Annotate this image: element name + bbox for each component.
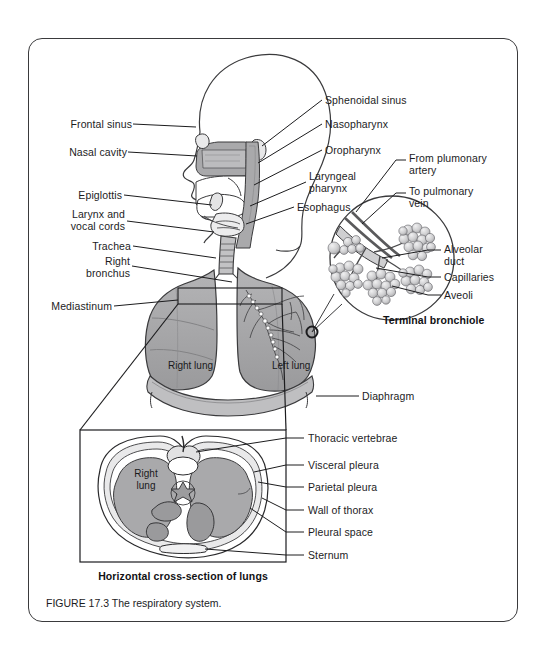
label-larynx-vocal-cords: Larynx and vocal cords bbox=[32, 208, 125, 233]
label-nasopharynx: Nasopharynx bbox=[325, 118, 388, 130]
label-sphenoidal-sinus: Sphenoidal sinus bbox=[325, 94, 407, 106]
label-aveoli: Aveoli bbox=[444, 289, 473, 301]
label-thoracic-vertebrae: Thoracic vertebrae bbox=[308, 432, 397, 444]
label-trachea: Trachea bbox=[32, 240, 131, 252]
label-frontal-sinus: Frontal sinus bbox=[32, 118, 132, 130]
label-to-pulmonary-vein: To pulmonary vein bbox=[409, 185, 473, 210]
label-nasal-cavity: Nasal cavity bbox=[32, 146, 127, 158]
label-esophagus: Esophagus bbox=[297, 201, 351, 213]
label-right-lung: Right lung bbox=[168, 360, 213, 372]
label-left-lung: Left lung bbox=[272, 360, 310, 372]
label-parietal-pleura: Parietal pleura bbox=[308, 481, 377, 493]
label-from-pulmonary-artery: From plumonary artery bbox=[409, 152, 487, 177]
label-diaphragm: Diaphragm bbox=[362, 390, 414, 402]
label-cs-right-lung: Right lung bbox=[118, 468, 174, 491]
caption-horizontal-cross-section: Horizontal cross-section of lungs bbox=[80, 570, 286, 582]
label-visceral-pleura: Visceral pleura bbox=[308, 459, 379, 471]
figure-page: Frontal sinus Nasal cavity Epiglottis La… bbox=[0, 0, 544, 664]
label-capillaries: Capillaries bbox=[444, 271, 494, 283]
caption-terminal-bronchiole: Terminal bronchiole bbox=[383, 314, 485, 326]
label-sternum: Sternum bbox=[308, 549, 348, 561]
label-mediastinum: Mediastinum bbox=[28, 300, 112, 312]
label-right-bronchus: Right bronchus bbox=[32, 255, 130, 280]
label-pleural-space: Pleural space bbox=[308, 526, 373, 538]
label-alveolar-duct: Alveolar duct bbox=[444, 243, 483, 268]
label-wall-of-thorax: Wall of thorax bbox=[308, 504, 373, 516]
label-epiglottis: Epiglottis bbox=[32, 189, 122, 201]
label-laryngeal-pharynx: Laryngeal pharynx bbox=[309, 170, 356, 195]
figure-caption: FIGURE 17.3 The respiratory system. bbox=[46, 597, 221, 609]
label-oropharynx: Oropharynx bbox=[325, 144, 381, 156]
